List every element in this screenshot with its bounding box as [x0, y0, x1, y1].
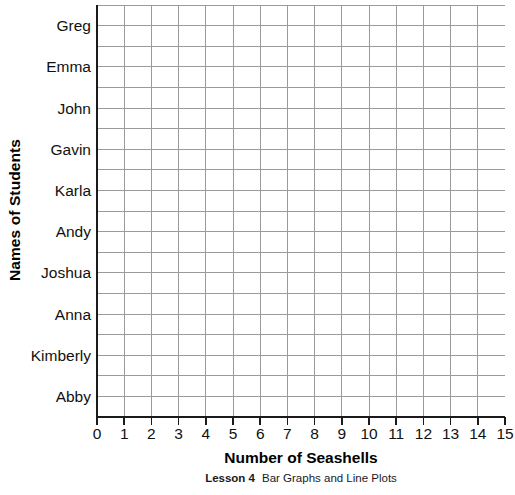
- x-axis-title: Number of Seashells: [97, 449, 505, 467]
- x-tick-label-1: 1: [120, 425, 129, 443]
- chart-axes: [90, 0, 515, 430]
- footer-lesson-number: Lesson 4: [205, 472, 255, 484]
- x-tick-label-6: 6: [256, 425, 265, 443]
- footer-lesson-title: Bar Graphs and Line Plots: [262, 472, 397, 484]
- category-axis-labels: GregEmmaJohnGavinKarlaAndyJoshuaAnnaKimb…: [26, 5, 94, 417]
- category-label-andy: Andy: [23, 223, 91, 240]
- x-tick-label-14: 14: [469, 425, 486, 443]
- category-label-joshua: Joshua: [23, 264, 91, 281]
- x-tick-label-10: 10: [360, 425, 377, 443]
- category-label-gavin: Gavin: [23, 141, 91, 158]
- category-label-abby: Abby: [23, 388, 91, 405]
- category-label-john: John: [23, 100, 91, 117]
- category-label-kimberly: Kimberly: [23, 347, 91, 364]
- footer: Lesson 4Bar Graphs and Line Plots: [97, 472, 505, 484]
- category-label-anna: Anna: [23, 306, 91, 323]
- x-tick-label-0: 0: [93, 425, 102, 443]
- x-tick-label-4: 4: [201, 425, 210, 443]
- category-label-karla: Karla: [23, 182, 91, 199]
- x-tick-label-13: 13: [442, 425, 459, 443]
- category-label-emma: Emma: [23, 58, 91, 75]
- x-tick-label-3: 3: [174, 425, 183, 443]
- x-tick-label-7: 7: [283, 425, 292, 443]
- x-axis-tick-labels: 0123456789101112131415: [0, 425, 515, 447]
- y-axis-title-text: Names of Students: [6, 139, 24, 281]
- x-tick-label-11: 11: [388, 425, 404, 443]
- x-tick-label-9: 9: [337, 425, 346, 443]
- x-tick-label-8: 8: [310, 425, 319, 443]
- x-tick-label-15: 15: [496, 425, 513, 443]
- x-tick-label-5: 5: [229, 425, 238, 443]
- x-tick-label-2: 2: [147, 425, 156, 443]
- category-label-greg: Greg: [23, 17, 91, 34]
- x-tick-label-12: 12: [415, 425, 432, 443]
